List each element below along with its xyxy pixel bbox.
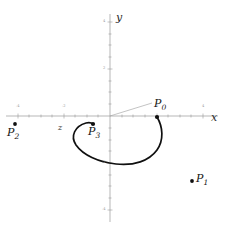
point-label-P0: P0: [154, 98, 166, 112]
plot-figure: y x z -4 -2 2 4 4 2 -2 -4 P0 P1 P2 P3: [0, 0, 226, 235]
y-tick-label-pos4: 4: [103, 20, 105, 24]
z-axis-label: z: [58, 124, 62, 132]
y-axis-label: y: [116, 12, 122, 23]
point-dot-P1: [190, 179, 194, 183]
y-tick-label-neg2: -2: [102, 161, 106, 165]
plot-canvas: [0, 0, 226, 235]
x-axis-label: x: [211, 112, 217, 123]
z-axis-line: [110, 103, 152, 116]
point-label-P2: P2: [7, 127, 19, 141]
x-tick-label-pos4: 4: [202, 105, 204, 109]
point-label-P1-sub: 1: [203, 178, 208, 187]
point-label-P3-sub: 3: [95, 131, 100, 140]
point-label-P0-sub: 0: [161, 103, 166, 112]
x-tick-label-neg4: -4: [16, 105, 20, 109]
point-dot-P0: [155, 115, 159, 119]
y-tick-label-pos2: 2: [103, 67, 105, 71]
point-label-P2-sub: 2: [14, 132, 19, 141]
point-label-P1: P1: [196, 173, 208, 187]
x-tick-label-neg2: -2: [62, 105, 66, 109]
point-label-P3: P3: [88, 126, 100, 140]
y-tick-label-neg4: -4: [102, 208, 106, 212]
data-curve: [73, 117, 161, 164]
